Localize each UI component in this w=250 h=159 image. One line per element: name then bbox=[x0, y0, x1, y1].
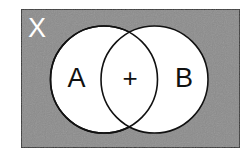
set-b-label: B bbox=[175, 63, 193, 93]
set-a-label: A bbox=[67, 63, 85, 93]
intersection-label: + bbox=[122, 63, 137, 93]
venn-diagram: X A + B bbox=[0, 0, 250, 159]
venn-diagram-canvas: X A + B bbox=[0, 0, 250, 159]
universe-label: X bbox=[28, 13, 46, 43]
